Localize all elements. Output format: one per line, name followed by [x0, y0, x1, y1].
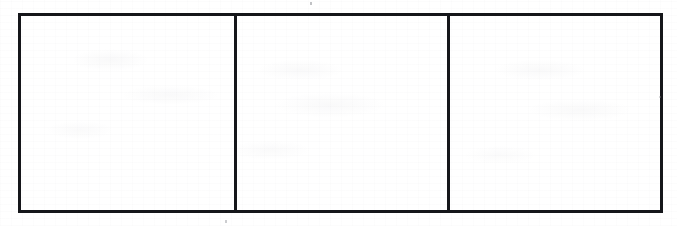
scan-speck-below-table	[225, 220, 227, 223]
table-cell-1-text	[21, 16, 234, 210]
table-cell-3[interactable]	[450, 16, 660, 210]
table-cell-3-text	[450, 16, 660, 210]
table-cell-2[interactable]	[237, 16, 450, 210]
scanned-page	[0, 0, 677, 226]
table-cell-2-text	[237, 16, 447, 210]
table-cell-1[interactable]	[21, 16, 237, 210]
three-cell-table	[18, 13, 663, 213]
scan-speck-above-table	[310, 2, 312, 5]
